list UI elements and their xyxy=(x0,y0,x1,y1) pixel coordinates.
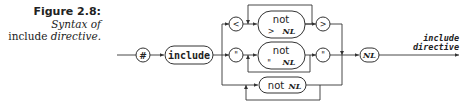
gt-label: > xyxy=(320,20,327,29)
nl-label: NL xyxy=(362,50,376,60)
not-quote-sym: " xyxy=(267,59,271,68)
hash-label: # xyxy=(139,51,147,61)
not-gt-sym: > xyxy=(268,27,275,36)
quote-open-label: " xyxy=(234,51,238,60)
not-quote-nl: NL xyxy=(282,57,296,67)
not-gt-nl: NL xyxy=(282,26,296,36)
not-nl-word: not xyxy=(268,80,284,91)
include-label: include xyxy=(168,50,210,61)
quote-close-label: " xyxy=(321,51,325,60)
output-label-line2: directive xyxy=(413,42,459,52)
lt-label: < xyxy=(233,20,240,29)
syntax-diagram: # include < not > NL > " not " NL " not … xyxy=(0,0,468,106)
not-gt-top: not xyxy=(273,14,289,25)
not-nl-nl: NL xyxy=(288,81,302,91)
not-quote-top: not xyxy=(273,45,289,56)
